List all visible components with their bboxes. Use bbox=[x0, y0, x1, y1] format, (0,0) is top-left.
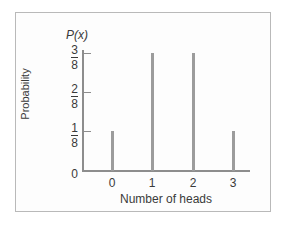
x-tick-label-0: 0 bbox=[100, 176, 124, 190]
y-tick-mark bbox=[84, 92, 91, 93]
y-tick-mark bbox=[84, 53, 91, 54]
fraction-numerator: 1 bbox=[71, 122, 78, 134]
y-tick-label-three-eighths: 3 8 bbox=[52, 44, 78, 73]
fraction-denominator: 8 bbox=[71, 137, 78, 149]
x-axis-line bbox=[82, 170, 250, 172]
x-tick-label-1: 1 bbox=[140, 176, 164, 190]
bar-category-0 bbox=[111, 131, 114, 171]
y-axis-line bbox=[82, 50, 84, 172]
fraction-numerator: 3 bbox=[71, 44, 78, 56]
y-tick-mark bbox=[84, 131, 91, 132]
y-tick-label-zero: 0 bbox=[52, 164, 78, 182]
y-axis-title: Probability bbox=[19, 49, 31, 139]
x-tick-label-3: 3 bbox=[221, 176, 245, 190]
y-tick-label-one-eighth: 1 8 bbox=[52, 122, 78, 151]
y-tick-label-two-eighths: 2 8 bbox=[52, 83, 78, 112]
x-tick-label-2: 2 bbox=[181, 176, 205, 190]
bar-category-1 bbox=[151, 53, 154, 171]
y-tick-label-zero-text: 0 bbox=[71, 168, 78, 180]
probability-distribution-chart: P(x) 3 8 2 8 1 8 0 0 1 2 3 bbox=[0, 0, 287, 234]
fraction-denominator: 8 bbox=[71, 59, 78, 71]
x-axis-title: Number of heads bbox=[82, 192, 250, 206]
fraction-denominator: 8 bbox=[71, 98, 78, 110]
function-label: P(x) bbox=[66, 28, 88, 42]
bar-category-3 bbox=[232, 131, 235, 171]
fraction-numerator: 2 bbox=[71, 83, 78, 95]
bar-category-2 bbox=[192, 53, 195, 171]
